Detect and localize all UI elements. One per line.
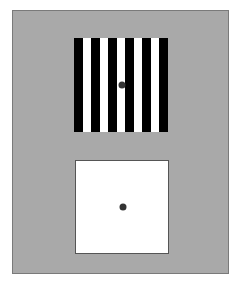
black-stripe <box>108 38 117 132</box>
white-stripe <box>100 38 109 132</box>
black-stripe <box>74 38 83 132</box>
black-stripe <box>142 38 151 132</box>
white-stripe <box>134 38 143 132</box>
black-stripe <box>91 38 100 132</box>
white-stripe <box>83 38 92 132</box>
white-stripe <box>151 38 160 132</box>
black-stripe <box>159 38 168 132</box>
black-stripe <box>125 38 134 132</box>
fixation-dot-top <box>119 82 126 89</box>
fixation-dot-bottom <box>120 204 127 211</box>
